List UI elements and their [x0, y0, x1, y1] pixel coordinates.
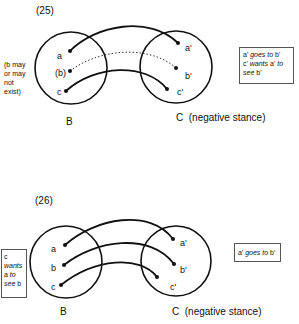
- left-note-25: (b may or may not exist): [4, 60, 25, 96]
- left-note-line: exist): [4, 87, 25, 96]
- dot-b-25: [68, 69, 72, 73]
- left-annotation-box-26: c wants a to see b: [1, 249, 27, 298]
- point-label-b-26: b: [51, 263, 56, 273]
- connection-c-c-prime-25: [66, 70, 167, 91]
- circle-b-25: [35, 32, 107, 104]
- dot-b-prime-26: [172, 262, 176, 266]
- dot-a-26: [63, 243, 67, 247]
- dot-c-prime-25: [165, 87, 169, 91]
- left-note-line: or may: [4, 69, 25, 78]
- circle-label-c-26: C (negative stance): [172, 307, 262, 317]
- point-label-a-25: a: [57, 51, 62, 61]
- point-label-c-prime-26: c': [170, 282, 176, 292]
- box-line: a' goes to b': [243, 50, 290, 59]
- circle-b-26: [30, 226, 102, 298]
- box-line: c: [4, 252, 24, 261]
- connection-a-a-prime-25: [70, 26, 178, 51]
- point-label-a-prime-26: a': [180, 238, 187, 248]
- box-line: wants: [4, 261, 24, 270]
- box-line: a to: [4, 270, 24, 279]
- box-line: see b': [243, 68, 290, 77]
- point-label-b-prime-25: b': [185, 71, 192, 81]
- dot-a-prime-25: [176, 41, 180, 45]
- dot-b-prime-25: [174, 66, 178, 70]
- circle-label-b-26: B: [60, 307, 67, 317]
- figure-number-25: (25): [36, 6, 54, 16]
- connection-b-b-prime-25: [70, 52, 176, 71]
- annotation-box-25: a' goes to b' c' wants a' to see b': [239, 47, 294, 84]
- point-label-a-prime-25: a': [185, 43, 192, 53]
- left-note-line: not: [4, 78, 25, 87]
- left-note-line: (b may: [4, 60, 25, 69]
- point-label-a-26: a: [51, 244, 56, 254]
- circle-label-b-25: B: [66, 117, 73, 127]
- figure-number-26: (26): [35, 196, 53, 206]
- point-label-c-prime-25: c': [177, 87, 183, 97]
- point-label-c-26: c: [51, 282, 56, 292]
- right-annotation-box-26: a' goes to b': [234, 243, 281, 262]
- circle-label-c-25: C (negative stance): [176, 113, 266, 123]
- point-label-b-25: (b): [55, 68, 66, 78]
- point-label-b-prime-26: b': [180, 265, 187, 275]
- box-line: see b: [4, 279, 24, 288]
- figure-26-graphics: [30, 220, 211, 298]
- dot-a-prime-26: [171, 237, 175, 241]
- dot-b-26: [62, 263, 66, 267]
- box-line: a' goes to b': [238, 249, 275, 256]
- dot-a-25: [68, 49, 72, 53]
- box-line: c' wants a' to: [243, 59, 290, 68]
- dot-c-25: [64, 89, 68, 93]
- dot-c-26: [59, 283, 63, 287]
- point-label-c-25: c: [57, 87, 62, 97]
- dot-c-prime-26: [155, 275, 159, 279]
